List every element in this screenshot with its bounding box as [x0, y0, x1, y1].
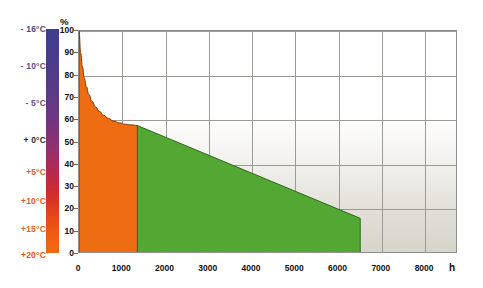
x-tick-label: 4000: [231, 263, 271, 273]
area-orange: [79, 31, 137, 253]
x-tick-label: 5000: [274, 263, 314, 273]
x-tick-label: 0: [58, 263, 98, 273]
x-tick-label: 3000: [188, 263, 228, 273]
chart-figure: - 16°C- 10°C- 5°C+ 0°C+5°C+10°C+15°C+20°…: [0, 0, 483, 288]
plot-area: [78, 30, 457, 253]
x-tick-label: 1000: [101, 263, 141, 273]
x-tick-label: 8000: [404, 263, 444, 273]
x-tick-label: 7000: [361, 263, 401, 273]
x-tick-label: 2000: [145, 263, 185, 273]
x-tick-label: 6000: [318, 263, 358, 273]
area-green: [137, 126, 360, 253]
area-series-group: [79, 31, 457, 253]
